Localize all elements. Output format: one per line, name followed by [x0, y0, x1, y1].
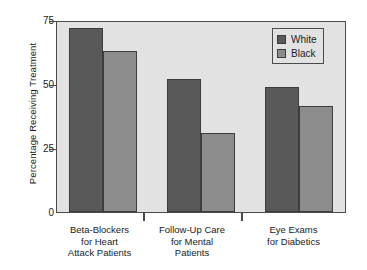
bar-black-group-0: [103, 51, 137, 212]
y-tick-label-50: 50: [14, 79, 54, 90]
x-group-label-0-line-0: Beta-Blockers: [56, 224, 143, 236]
y-tick-label-25: 25: [14, 143, 54, 154]
legend-swatch-black-icon: [277, 49, 286, 58]
y-tick-mark-75: [49, 21, 56, 23]
y-tick-mark-25: [49, 149, 56, 151]
x-group-label-2-line-1: for Diabetics: [241, 236, 346, 248]
legend-label-white: White: [291, 34, 317, 45]
x-group-label-0: Beta-Blockersfor HeartAttack Patients: [56, 224, 143, 259]
x-group-separator-2: [241, 213, 243, 221]
bar-white-group-0: [69, 28, 103, 212]
x-group-label-1: Follow-Up Carefor MentalPatients: [143, 224, 241, 259]
legend-item-black: Black: [277, 46, 317, 60]
y-axis-title: Percentage Receiving Treatment: [27, 9, 38, 219]
y-tick-mark-50: [49, 85, 56, 87]
legend-item-white: White: [277, 32, 317, 46]
bar-chart-figure: Percentage Receiving Treatment 75 50 25 …: [0, 0, 367, 270]
legend-label-black: Black: [291, 48, 315, 59]
x-group-label-2-line-0: Eye Exams: [241, 224, 346, 236]
x-group-label-1-line-1: for Mental: [143, 236, 241, 248]
legend-swatch-white-icon: [277, 35, 286, 44]
bar-black-group-1: [201, 133, 235, 212]
x-group-separator-1: [143, 213, 145, 221]
bar-white-group-2: [265, 87, 299, 212]
bar-white-group-1: [167, 79, 201, 212]
y-tick-label-0: 0: [14, 207, 54, 218]
y-tick-label-75: 75: [14, 15, 54, 26]
legend: White Black: [272, 28, 324, 64]
bar-black-group-2: [299, 106, 333, 212]
x-group-label-0-line-2: Attack Patients: [56, 247, 143, 259]
x-group-label-1-line-0: Follow-Up Care: [143, 224, 241, 236]
x-group-label-0-line-1: for Heart: [56, 236, 143, 248]
x-group-label-1-line-2: Patients: [143, 247, 241, 259]
x-group-label-2: Eye Examsfor Diabetics: [241, 224, 346, 247]
